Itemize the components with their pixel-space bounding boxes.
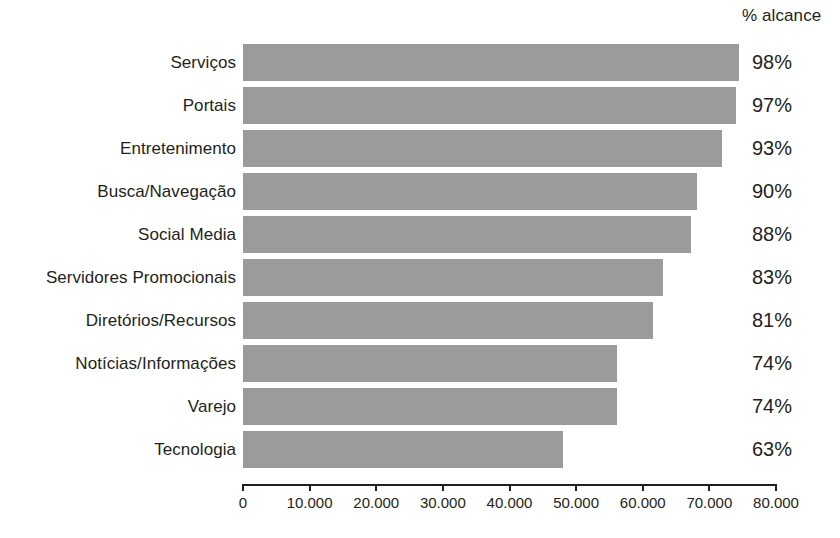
category-label: Portais (0, 87, 236, 124)
chart-row: Entretenimento93% (0, 130, 840, 167)
x-axis-tick (575, 484, 577, 491)
percent-value: 90% (752, 173, 792, 210)
category-label: Servidores Promocionais (0, 259, 236, 296)
category-label: Varejo (0, 388, 236, 425)
x-axis-tick-label: 10.000 (287, 494, 333, 511)
chart-row: Varejo74% (0, 388, 840, 425)
chart-row: Social Media88% (0, 216, 840, 253)
bar (243, 302, 653, 339)
bar (243, 431, 563, 468)
x-axis-tick-label: 0 (239, 494, 247, 511)
chart-row: Servidores Promocionais83% (0, 259, 840, 296)
x-axis-tick-label: 60.000 (620, 494, 666, 511)
percent-value: 93% (752, 130, 792, 167)
percent-value: 88% (752, 216, 792, 253)
x-axis-tick-label: 70.000 (686, 494, 732, 511)
bar (243, 345, 617, 382)
bar-chart: % alcance Serviços98%Portais97%Entreteni… (0, 0, 840, 538)
x-axis-tick (309, 484, 311, 491)
x-axis-tick-label: 50.000 (553, 494, 599, 511)
percent-column-header: % alcance (742, 6, 838, 26)
bar (243, 173, 697, 210)
x-axis-tick (375, 484, 377, 491)
percent-value: 98% (752, 44, 792, 81)
category-label: Tecnologia (0, 431, 236, 468)
x-axis-tick-label: 80.000 (753, 494, 799, 511)
chart-row: Notícias/Informações74% (0, 345, 840, 382)
chart-row: Tecnologia63% (0, 431, 840, 468)
chart-row: Portais97% (0, 87, 840, 124)
x-axis-tick-label: 40.000 (487, 494, 533, 511)
category-label: Notícias/Informações (0, 345, 236, 382)
x-axis-tick-label: 30.000 (420, 494, 466, 511)
percent-value: 74% (752, 345, 792, 382)
plot-area: Serviços98%Portais97%Entretenimento93%Bu… (0, 44, 840, 484)
chart-row: Diretórios/Recursos81% (0, 302, 840, 339)
bar (243, 130, 722, 167)
chart-row: Busca/Navegação90% (0, 173, 840, 210)
percent-value: 81% (752, 302, 792, 339)
x-axis: 010.00020.00030.00040.00050.00060.00070.… (0, 484, 840, 538)
chart-row: Serviços98% (0, 44, 840, 81)
category-label: Social Media (0, 216, 236, 253)
x-axis-tick (442, 484, 444, 491)
x-axis-tick (509, 484, 511, 491)
bar (243, 388, 617, 425)
x-axis-tick-label: 20.000 (353, 494, 399, 511)
percent-value: 63% (752, 431, 792, 468)
percent-value: 74% (752, 388, 792, 425)
x-axis-tick (775, 484, 777, 491)
x-axis-tick (242, 484, 244, 491)
bar (243, 87, 736, 124)
x-axis-tick (708, 484, 710, 491)
category-label: Diretórios/Recursos (0, 302, 236, 339)
percent-value: 97% (752, 87, 792, 124)
category-label: Serviços (0, 44, 236, 81)
bar (243, 216, 691, 253)
category-label: Busca/Navegação (0, 173, 236, 210)
x-axis-tick (642, 484, 644, 491)
bar (243, 259, 663, 296)
bar (243, 44, 739, 81)
category-label: Entretenimento (0, 130, 236, 167)
percent-value: 83% (752, 259, 792, 296)
